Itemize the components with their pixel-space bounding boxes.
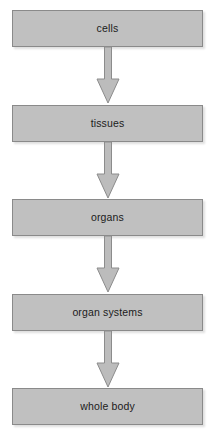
down-arrow-icon-tissues-to-organs xyxy=(96,141,120,199)
level-box-cells: cells xyxy=(12,10,203,47)
level-box-organs: organs xyxy=(12,199,203,236)
level-label-tissues: tissues xyxy=(91,118,125,129)
level-box-whole-body: whole body xyxy=(12,388,203,425)
level-box-tissues: tissues xyxy=(12,105,203,142)
down-arrow-icon-organs-to-organ-systems xyxy=(96,235,120,293)
organization-levels-flowchart: cells tissues organs organ systems whole… xyxy=(0,0,215,432)
level-label-whole-body: whole body xyxy=(80,401,135,412)
level-label-organs: organs xyxy=(91,212,124,223)
level-label-organ-systems: organ systems xyxy=(72,307,142,318)
down-arrow-icon-cells-to-tissues xyxy=(96,46,120,104)
level-box-organ-systems: organ systems xyxy=(12,294,203,331)
down-arrow-icon-organ-systems-to-whole-body xyxy=(96,330,120,388)
level-label-cells: cells xyxy=(97,23,119,34)
